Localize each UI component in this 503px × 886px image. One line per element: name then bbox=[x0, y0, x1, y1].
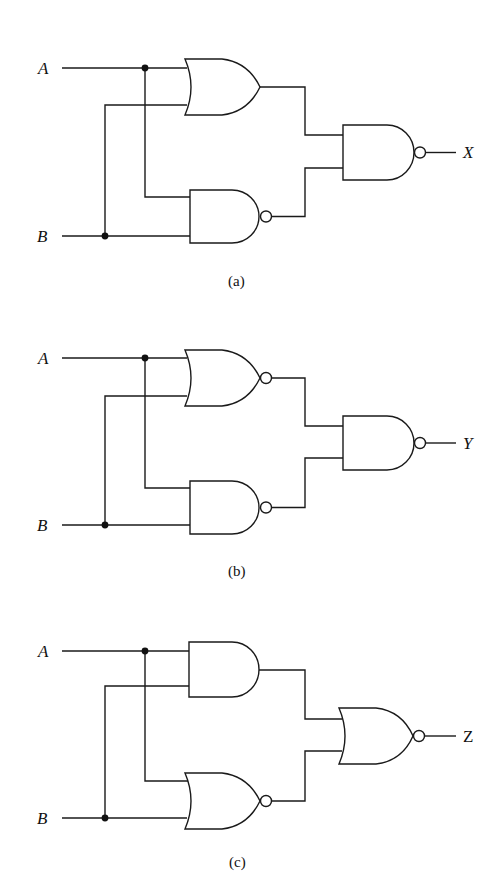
input-label-b: B bbox=[37, 516, 48, 535]
input-label-a: A bbox=[37, 642, 49, 661]
input-label-b: B bbox=[37, 227, 48, 246]
output-label-z: Z bbox=[463, 727, 473, 746]
or-gate bbox=[185, 59, 260, 115]
input-label-a: A bbox=[37, 59, 49, 78]
circuit-a: A B X (a) bbox=[37, 59, 474, 290]
wire-a-branch bbox=[145, 68, 190, 197]
nand-gate-output bbox=[343, 125, 414, 180]
nand-gate-output bbox=[343, 416, 414, 470]
inversion-bubble bbox=[261, 373, 272, 384]
inversion-bubble bbox=[414, 731, 425, 742]
circuit-b: A B Y (b) bbox=[37, 349, 474, 580]
wire-upper-out bbox=[260, 87, 343, 135]
nand-gate bbox=[190, 481, 259, 534]
circuit-c: A B Z (c) bbox=[37, 642, 473, 871]
wire-b-branch bbox=[105, 105, 187, 236]
wire-lower-out bbox=[272, 751, 343, 801]
nor-gate bbox=[185, 350, 260, 406]
input-label-a: A bbox=[37, 349, 49, 368]
junction-dot bbox=[102, 233, 109, 240]
wire-a-branch bbox=[145, 358, 190, 488]
inversion-bubble bbox=[261, 211, 272, 222]
junction-dot bbox=[102, 522, 109, 529]
input-label-b: B bbox=[37, 809, 48, 828]
output-label-y: Y bbox=[463, 434, 474, 453]
wire-b-branch bbox=[105, 396, 187, 525]
nand-gate bbox=[190, 190, 259, 243]
inversion-bubble bbox=[261, 502, 272, 513]
nor-gate bbox=[185, 773, 260, 829]
junction-dot bbox=[102, 815, 109, 822]
inversion-bubble bbox=[415, 438, 426, 449]
inversion-bubble bbox=[261, 796, 272, 807]
nor-gate-output bbox=[339, 708, 413, 764]
inversion-bubble bbox=[415, 147, 426, 158]
junction-dot bbox=[142, 355, 149, 362]
wire-a-branch bbox=[145, 651, 188, 781]
output-label-x: X bbox=[462, 143, 474, 162]
caption-b: (b) bbox=[228, 563, 246, 580]
and-gate bbox=[189, 642, 259, 697]
wire-lower-out bbox=[272, 458, 344, 508]
junction-dot bbox=[142, 648, 149, 655]
caption-a: (a) bbox=[228, 273, 245, 290]
wire-upper-out bbox=[272, 378, 344, 426]
wire-upper-out bbox=[259, 670, 342, 719]
caption-c: (c) bbox=[229, 854, 246, 871]
junction-dot bbox=[142, 65, 149, 72]
wire-b-branch bbox=[105, 686, 189, 818]
wire-lower-out bbox=[272, 168, 344, 217]
